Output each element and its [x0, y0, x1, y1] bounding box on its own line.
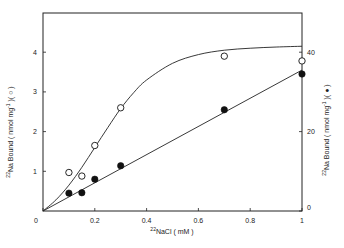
y-left-tick-label: 1: [33, 168, 37, 175]
y-left-tick-label: 3: [33, 88, 37, 95]
y-left-tick-label: 2: [33, 128, 37, 135]
open-circle-point: [92, 142, 98, 148]
open-series-fit-curve: [43, 46, 302, 211]
y-right-tick-label: 20: [307, 128, 315, 135]
filled-circle-point: [79, 190, 85, 196]
axis-ticks: [43, 52, 302, 211]
open-circle-point: [66, 169, 72, 175]
y-right-tick-label: 40: [307, 49, 315, 56]
x-tick-label: 0: [34, 217, 38, 224]
data-points: [66, 53, 305, 196]
fit-lines: [43, 46, 302, 211]
filled-circle-point: [66, 190, 72, 196]
x-tick-label: 1: [300, 217, 304, 224]
y-left-tick-label: 4: [33, 49, 37, 56]
x-tick-label: 0.4: [142, 217, 152, 224]
chart: 00.20.40.60.81123402040 22NaCl ( mM ) 22…: [0, 0, 344, 248]
x-tick-label: 0.6: [194, 217, 204, 224]
plot-border: [43, 13, 302, 211]
x-tick-label: 0.2: [90, 217, 100, 224]
open-circle-point: [299, 58, 305, 64]
x-axis-label: 22NaCl ( mM ): [150, 226, 193, 236]
x-tick-label: 0.8: [245, 217, 255, 224]
y-axis-right-label: 22Na Bound ( nmol mg-1 )( ● ): [321, 84, 331, 175]
y-left-label-tail: )( ○ ): [7, 86, 15, 103]
filled-circle-point: [221, 107, 227, 113]
open-circle-point: [221, 53, 227, 59]
y-axis-left-label: 22Na Bound ( nmol mg-1 )( ○ ): [5, 86, 15, 177]
y-right-label-main: Na Bound ( nmol mg: [323, 106, 331, 170]
open-circle-point: [79, 173, 85, 179]
filled-circle-point: [299, 71, 305, 77]
axis-tick-labels: 00.20.40.60.81123402040: [33, 49, 315, 224]
open-circle-point: [118, 105, 124, 111]
y-right-tick-label: 0: [307, 204, 311, 211]
filled-circle-point: [118, 163, 124, 169]
filled-circle-point: [92, 176, 98, 182]
y-right-label-tail: )( ● ): [323, 84, 331, 101]
plot-frame: [43, 13, 302, 211]
y-left-label-main: Na Bound ( nmol mg: [7, 108, 15, 172]
x-axis-label-main: NaCl ( mM ): [156, 228, 194, 236]
